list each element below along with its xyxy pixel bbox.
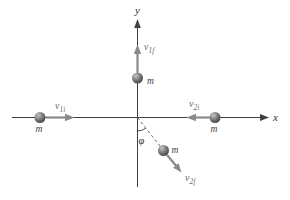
mass-label-lower-right: m [172,145,179,155]
mass-ball-top [132,73,143,84]
v1f-arrowhead-icon [134,45,141,55]
mass-label-top: m [147,76,154,86]
v1i-label: v1i [55,100,65,114]
v1i-arrowhead-icon [65,114,75,121]
mass-label-right: m [211,124,218,134]
x-axis-label: x [272,111,278,123]
x-axis-arrowhead-icon [260,114,269,121]
figure-labels: y x v1i v2i v1f v2f m m m m φ [36,4,278,186]
v2f-label: v2f [185,172,196,186]
v2i-arrowhead-icon [187,114,197,121]
mass-ball-left [35,112,46,123]
mass-ball-lower-right [158,145,169,156]
v2i-label: v2i [189,98,199,112]
y-axis-label: y [134,4,140,16]
collision-diagram-canvas: y x v1i v2i v1f v2f m m m m φ [0,0,290,200]
y-axis-arrowhead-icon [134,19,141,28]
coordinate-axes [12,19,269,187]
mass-ball-right [210,112,221,123]
v2f-vector [167,155,177,166]
angle-label: φ [139,135,145,146]
angle-arc [138,128,146,131]
physics-collision-figure: y x v1i v2i v1f v2f m m m m φ [0,0,290,200]
v1f-label: v1f [144,41,155,55]
mass-label-left: m [36,124,43,134]
mass-spheres [35,73,221,157]
velocity-vectors [46,45,209,173]
